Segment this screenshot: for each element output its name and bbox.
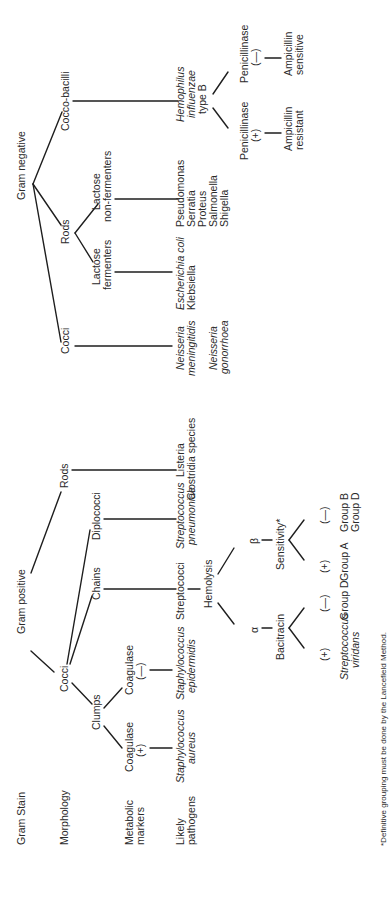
strep-viridans-line2: viridans [349, 631, 361, 668]
edge-sensitivity-neg [289, 520, 304, 540]
gn-cocci-label: Cocci [59, 328, 71, 354]
gram-negative-label: Gram negative [15, 131, 27, 200]
gn-pathogen-klebsiella: Klebsiella [185, 265, 197, 310]
coagulase-pos-sign: (+) [134, 744, 146, 757]
edge-hemophilus-pen-neg [213, 72, 228, 94]
bacitracin-label: Bacitracin [274, 614, 286, 660]
edge-hemophilus-pen-pos [213, 108, 228, 128]
bacitracin-neg-sign: (—) [318, 595, 330, 613]
alpha-label: α [248, 627, 260, 633]
bacteria-identification-diagram: Gram Stain Morphology Metabolic markers … [0, 0, 391, 906]
ampicillin-resistant-line2: resistant [293, 110, 305, 150]
gram-positive-label: Gram positive [15, 569, 27, 634]
row-labels: Gram Stain Morphology Metabolic markers … [15, 789, 197, 845]
edge-hemolysis-alpha [218, 603, 234, 624]
edge-gram-negative-cocci [33, 184, 61, 342]
group-a-label: Group A [338, 542, 350, 581]
edge-gram-negative-cocco-bacilli [33, 112, 62, 184]
beta-label: β [248, 538, 260, 544]
lactose-non-fermenters-line2: non-fermenters [101, 151, 113, 222]
edge-clumps-coagulase-pos [104, 726, 122, 748]
row-label-gram-stain: Gram Stain [15, 792, 27, 845]
bacitracin-pos-sign: (+) [318, 648, 330, 661]
gp-cocci-label: Cocci [58, 666, 70, 692]
ampicillin-sensitive-line2: sensitive [293, 34, 305, 75]
lactose-fermenters-line2: fermenters [101, 240, 113, 290]
edge-bacitracin-neg [289, 608, 304, 628]
sensitivity-neg-sign: (—) [318, 507, 330, 525]
cocco-bacilli-label: Cocco-bacilli [59, 71, 71, 131]
group-d-label-beta: Group D [349, 492, 361, 532]
staph-epidermidis-line2: epidermidis [185, 639, 197, 693]
diplococci-pathogen-line2: pneumoniae [185, 487, 197, 546]
coagulase-neg-sign: (—) [134, 663, 146, 681]
sensitivity-pos-sign: (+) [318, 560, 330, 573]
edge-cocci-diplococci [67, 530, 90, 664]
gram-positive-branch: Gram positive Cocci Rods Listeria Clostr… [15, 418, 361, 783]
edge-gram-positive-cocci [31, 651, 54, 672]
sensitivity-label: Sensitivity* [274, 519, 286, 570]
edge-bacitracin-pos [289, 628, 304, 648]
streptococci-label: Streptococci [174, 562, 186, 620]
hemolysis-label: Hemolysis [202, 560, 214, 608]
chains-label: Chains [90, 567, 102, 600]
neisseria-gonorrhoea-line2: gonorrhoea [218, 320, 230, 374]
edge-sensitivity-pos [289, 540, 304, 560]
diplococci-label: Diplococci [90, 492, 102, 540]
neisseria-meningitidis-line2: meningitidis [185, 320, 197, 376]
row-label-morphology: Morphology [58, 789, 70, 845]
gn-pathogen-shigella: Shigella [218, 189, 230, 227]
edge-cocci-clumps [72, 683, 92, 704]
edge-clumps-coagulase-neg [104, 688, 122, 708]
gp-rods-label: Rods [58, 463, 70, 488]
gn-rods-label: Rods [59, 219, 71, 244]
penicillinase-pos-sign: (+) [249, 129, 261, 142]
clumps-label: Clumps [90, 694, 102, 730]
footnote: *Definitive grouping must be done by the… [379, 632, 388, 846]
bacitracin-neg-result: Group D [338, 580, 350, 620]
row-label-likely-pathogens-2: pathogens [185, 796, 197, 845]
staph-aureus-line2: aureus [185, 731, 197, 764]
edge-hemolysis-beta [218, 548, 234, 574]
row-label-metabolic-markers-2: markers [134, 807, 146, 845]
edge-gram-positive-rods [31, 492, 61, 573]
gram-negative-branch: Gram negative Cocco-bacilli Hemophilus i… [15, 24, 305, 376]
penicillinase-neg-sign: (—) [249, 49, 261, 67]
hemophilus-line3: type B [196, 84, 208, 114]
